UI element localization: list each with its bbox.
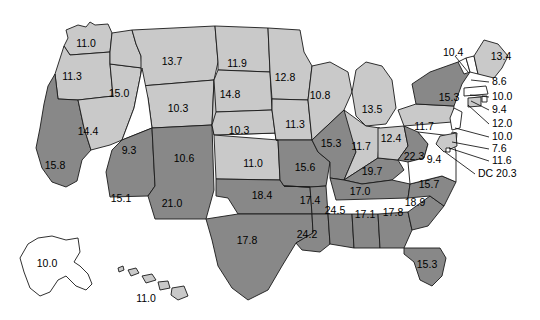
value-label-ok: 18.4 xyxy=(252,189,273,201)
map-svg: 11.011.315.013.711.914.810.310.312.810.8… xyxy=(0,0,540,320)
value-label-mn: 12.8 xyxy=(275,71,296,83)
value-label-hi: 11.0 xyxy=(136,292,156,304)
callout-label-nh: 8.6 xyxy=(492,75,507,87)
value-label-tx: 17.8 xyxy=(237,234,258,246)
value-label-ar: 17.4 xyxy=(300,194,321,206)
leader-line-de xyxy=(452,142,489,149)
value-label-ny: 15.3 xyxy=(439,91,460,103)
value-label-ca: 15.8 xyxy=(45,159,66,171)
callout-label-vt: 10.4 xyxy=(443,46,464,58)
value-label-ky: 19.7 xyxy=(362,165,383,177)
state-hi xyxy=(118,266,124,272)
value-label-nd: 11.9 xyxy=(227,57,247,69)
value-label-mi: 13.5 xyxy=(362,103,383,115)
state-hi xyxy=(171,286,188,300)
value-label-ak: 10.0 xyxy=(37,257,58,269)
callout-label-de: 7.6 xyxy=(492,142,507,154)
value-label-wy: 10.3 xyxy=(168,102,189,114)
value-label-id: 15.0 xyxy=(109,87,130,99)
value-label-wa: 11.0 xyxy=(76,37,96,49)
value-label-la: 24.2 xyxy=(297,228,318,240)
value-label-sd: 14.8 xyxy=(220,88,241,100)
state-mi xyxy=(352,62,396,126)
value-label-pa: 11.7 xyxy=(414,120,434,132)
value-label-nv: 14.4 xyxy=(78,125,99,137)
value-label-me: 13.4 xyxy=(491,50,512,62)
callout-label-ma: 10.0 xyxy=(492,90,513,102)
callout-label-ri: 9.4 xyxy=(492,103,507,115)
callout-label-md: 11.6 xyxy=(492,154,512,166)
value-label-in: 11.7 xyxy=(351,140,371,152)
value-label-mo: 15.6 xyxy=(295,161,316,173)
callout-label-nj: 10.0 xyxy=(492,130,513,142)
us-choropleth-map: 11.011.315.013.711.914.810.310.312.810.8… xyxy=(0,0,540,320)
value-label-az: 15.1 xyxy=(111,192,132,204)
value-label-ia: 11.3 xyxy=(285,118,305,130)
value-label-oh: 12.4 xyxy=(381,132,402,144)
value-label-ks: 11.0 xyxy=(243,157,263,169)
state-hi xyxy=(158,281,170,290)
value-label-ut: 9.3 xyxy=(122,144,137,156)
value-label-tn: 17.0 xyxy=(350,185,371,197)
state-hi xyxy=(142,274,156,283)
value-label-co: 10.6 xyxy=(174,152,195,164)
value-label-wi: 10.8 xyxy=(310,89,331,101)
state-ms xyxy=(328,214,354,248)
leader-line-ct xyxy=(468,105,489,124)
value-label-al: 17.1 xyxy=(355,208,376,220)
state-hi xyxy=(128,268,139,276)
leader-line-nj xyxy=(455,128,489,137)
callout-label-dc: DC 20.3 xyxy=(478,167,517,179)
value-label-va: 9.4 xyxy=(427,153,442,165)
value-label-sc: 18.9 xyxy=(405,196,426,208)
state-dc xyxy=(446,148,450,152)
value-label-mt: 13.7 xyxy=(162,55,183,67)
state-mn xyxy=(268,28,312,100)
value-label-or: 11.3 xyxy=(62,70,82,82)
value-label-ne: 10.3 xyxy=(229,124,250,136)
value-label-nm: 21.0 xyxy=(162,197,183,209)
value-label-ms: 24.5 xyxy=(325,204,346,216)
value-label-il: 15.3 xyxy=(321,137,342,149)
value-label-ga: 17.8 xyxy=(383,206,404,218)
leader-line-nh xyxy=(471,80,489,82)
state-ct xyxy=(468,97,481,107)
state-ma xyxy=(464,86,488,96)
callout-label-ct: 12.0 xyxy=(492,117,513,129)
value-label-wv: 22.3 xyxy=(404,150,425,162)
value-label-nc: 15.7 xyxy=(419,178,440,190)
value-label-fl: 15.3 xyxy=(417,258,438,270)
